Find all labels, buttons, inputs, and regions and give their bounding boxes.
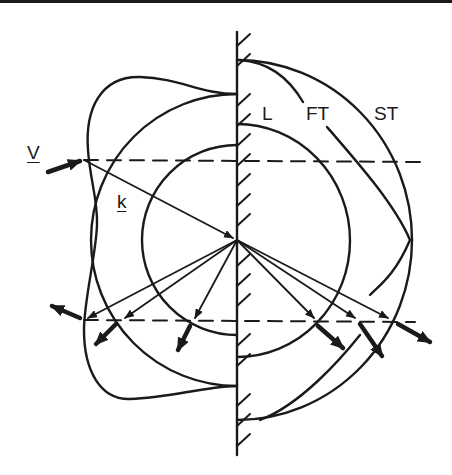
dashed-line-bottom [84, 320, 415, 322]
right-FT-curve-mid [327, 127, 410, 295]
label-L: L [262, 104, 273, 123]
reflected-v-right-2 [360, 324, 382, 356]
reflected-v-right-1 [318, 326, 343, 348]
label-V: V [27, 143, 40, 162]
incident-group-velocity [48, 161, 80, 172]
reflected-k-right-1 [237, 240, 314, 318]
incident-wave-vector [84, 160, 233, 238]
label-ST: ST [374, 104, 398, 123]
reflected-v-left-1 [52, 306, 80, 318]
reflected-k-right-2 [237, 240, 355, 318]
left-inner-circle [142, 145, 237, 335]
reflected-k-left-1 [88, 240, 237, 318]
reflected-k-right-3 [237, 240, 388, 318]
dashed-line-top [84, 160, 427, 162]
label-k: k [117, 192, 127, 211]
diagram-canvas [0, 0, 452, 475]
left-outer-slowness-curve [84, 77, 237, 399]
reflected-v-left-3 [178, 326, 190, 350]
reflected-v-right-3 [398, 324, 430, 342]
left-middle-circle [91, 94, 237, 386]
reflected-v-left-2 [96, 324, 116, 344]
label-FT: FT [306, 104, 329, 123]
